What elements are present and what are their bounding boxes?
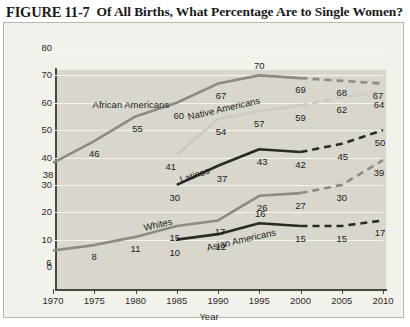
data-label: 17 <box>375 227 386 238</box>
data-label: 46 <box>89 148 100 159</box>
series-line-african-americans-projection <box>301 78 384 83</box>
chart-frame: 01020304050607080 1970197519801985199019… <box>3 22 404 318</box>
data-label: 15 <box>169 231 180 242</box>
figure-title-bar: FIGURE 11-7 Of All Births, What Percenta… <box>0 2 410 22</box>
data-label: 10 <box>169 246 180 257</box>
data-label: 27 <box>295 200 306 211</box>
series-line-asian-americans-projection <box>301 220 384 225</box>
data-label: 15 <box>336 232 347 243</box>
data-label: 70 <box>254 60 265 71</box>
data-label: 37 <box>217 172 228 183</box>
series-line-whites-projection <box>301 160 384 193</box>
figure-number: FIGURE 11-7 <box>6 4 90 21</box>
data-label: 41 <box>165 160 176 171</box>
data-label: 38 <box>43 168 54 179</box>
data-label: 43 <box>257 156 268 167</box>
data-label: 54 <box>216 126 227 137</box>
series-label-african-americans: African Americans <box>93 99 170 110</box>
data-label: 68 <box>336 86 347 97</box>
data-label: 11 <box>131 242 141 253</box>
data-label: 57 <box>254 117 265 128</box>
data-label: 6 <box>46 256 51 267</box>
data-label: 59 <box>295 112 306 123</box>
data-label: 16 <box>255 208 266 219</box>
series-line-latinos-projection <box>301 130 384 152</box>
data-label: 45 <box>337 150 348 161</box>
data-label: 30 <box>336 191 347 202</box>
x-axis-title: Year <box>4 311 410 322</box>
data-label: 17 <box>215 226 226 237</box>
data-label: 42 <box>295 159 306 170</box>
data-label: 39 <box>374 167 385 178</box>
data-label: 30 <box>169 191 180 202</box>
data-label: 55 <box>132 123 143 134</box>
data-label: 60 <box>173 109 184 120</box>
data-label: 64 <box>374 98 385 109</box>
data-label: 67 <box>216 89 227 100</box>
data-label: 8 <box>92 251 97 262</box>
data-label: 50 <box>375 137 386 148</box>
data-label: 15 <box>295 232 306 243</box>
data-label: 69 <box>295 84 306 95</box>
data-label: 62 <box>336 104 347 115</box>
figure-title: Of All Births, What Percentage Are to Si… <box>97 4 403 20</box>
figure-container: FIGURE 11-7 Of All Births, What Percenta… <box>0 0 410 327</box>
